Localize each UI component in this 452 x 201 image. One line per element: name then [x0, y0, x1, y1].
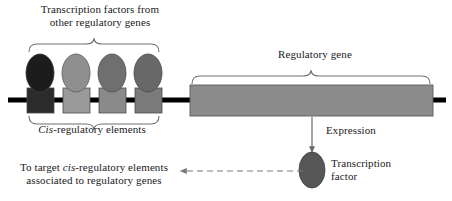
label-transcription-factor: Transcriptionfactor — [331, 157, 413, 183]
label-cis-regulatory-elements: Cis-regulatory elements — [22, 123, 162, 136]
tf-oval-4 — [134, 54, 162, 92]
label-tf-source-line1: Transcription factors from — [41, 3, 159, 15]
label-target-line2: associated to regulatory genes — [26, 174, 161, 186]
label-regulatory-gene: Regulatory gene — [262, 48, 368, 61]
label-cis-rest: -regulatory elements — [53, 123, 146, 135]
label-target-post: -regulatory elements — [75, 161, 168, 173]
label-tf-line1: Transcription — [331, 157, 391, 169]
label-tf-line2: factor — [331, 170, 357, 182]
label-tf-source-line2: other regulatory genes — [50, 16, 151, 28]
label-expression: Expression — [326, 124, 406, 137]
label-cis-italic: Cis — [38, 123, 53, 135]
regulatory-network-figure: Transcription factors fromother regulato… — [0, 0, 452, 201]
brace-regulatory-gene — [192, 70, 430, 84]
product-oval — [299, 152, 325, 188]
tf-oval-3 — [98, 54, 126, 92]
label-target-italic: cis — [63, 161, 76, 173]
tf-oval-2 — [62, 54, 90, 92]
label-target-cis-elements: To target cis-regulatory elementsassocia… — [4, 161, 184, 187]
brace-transcription-factors — [29, 38, 159, 52]
tf-oval-1 — [26, 54, 54, 92]
regulatory-gene-box — [190, 85, 433, 116]
label-transcription-factors-source: Transcription factors fromother regulato… — [22, 3, 178, 29]
label-target-pre: To target — [20, 161, 63, 173]
